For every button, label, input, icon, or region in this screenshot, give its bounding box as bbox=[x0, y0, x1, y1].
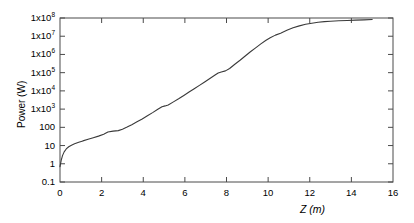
plot-frame bbox=[60, 18, 393, 182]
y-tick-mantissa: 1x10 bbox=[31, 85, 52, 96]
x-tick-label: 6 bbox=[173, 188, 197, 198]
y-tick-label: 1x103 bbox=[0, 104, 55, 114]
y-tick-label: 1x108 bbox=[0, 13, 55, 23]
y-axis-title: Power (W) bbox=[16, 81, 27, 128]
y-tick-mantissa: 100 bbox=[39, 121, 55, 132]
x-tick-label: 0 bbox=[48, 188, 72, 198]
y-tick-mantissa: 1x10 bbox=[31, 103, 52, 114]
y-tick-label: 1x105 bbox=[0, 68, 55, 78]
x-tick-label: 4 bbox=[131, 188, 155, 198]
y-tick-label: 1 bbox=[0, 159, 55, 169]
y-tick-mantissa: 1x10 bbox=[31, 48, 52, 59]
y-tick-exponent: 3 bbox=[51, 102, 55, 109]
x-tick-label: 12 bbox=[298, 188, 322, 198]
y-tick-mantissa: 10 bbox=[44, 140, 55, 151]
y-tick-mantissa: 1x10 bbox=[31, 30, 52, 41]
y-tick-exponent: 8 bbox=[51, 11, 55, 18]
x-axis-title-text: Z (m) bbox=[300, 203, 325, 215]
x-tick-label: 2 bbox=[90, 188, 114, 198]
y-tick-label: 1x104 bbox=[0, 86, 55, 96]
y-tick-mantissa: 1x10 bbox=[31, 12, 52, 23]
x-axis-title: Z (m) bbox=[300, 203, 325, 215]
y-tick-label: 1x107 bbox=[0, 31, 55, 41]
x-tick-label: 14 bbox=[339, 188, 363, 198]
power-vs-z-chart: 0.11101001x1031x1041x1051x1061x1071x108 … bbox=[0, 0, 414, 223]
y-tick-exponent: 5 bbox=[51, 66, 55, 73]
y-tick-label: 10 bbox=[0, 141, 55, 151]
y-tick-label: 100 bbox=[0, 122, 55, 132]
y-tick-exponent: 7 bbox=[51, 29, 55, 36]
y-tick-label: 0.1 bbox=[0, 177, 55, 187]
x-tick-label: 10 bbox=[256, 188, 280, 198]
y-tick-exponent: 6 bbox=[51, 47, 55, 54]
y-tick-mantissa: 1x10 bbox=[31, 67, 52, 78]
y-tick-label: 1x106 bbox=[0, 49, 55, 59]
x-tick-label: 8 bbox=[215, 188, 239, 198]
y-tick-mantissa: 0.1 bbox=[42, 176, 55, 187]
y-axis-title-text: Power (W) bbox=[16, 81, 27, 128]
y-tick-exponent: 4 bbox=[51, 84, 55, 91]
y-tick-mantissa: 1 bbox=[50, 158, 55, 169]
x-tick-label: 16 bbox=[381, 188, 405, 198]
